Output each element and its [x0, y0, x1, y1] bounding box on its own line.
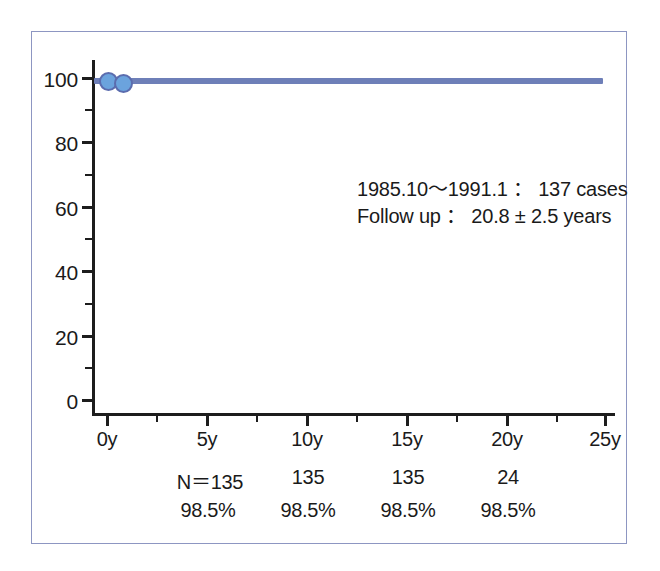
y-tick-minor-50	[85, 238, 93, 240]
x-tick-25y	[604, 415, 607, 426]
x-tick-minor-17_5y	[456, 415, 458, 422]
pct-value-20y: 98.5%	[443, 499, 573, 522]
y-tick-minor-10	[85, 367, 93, 369]
y-tick-label-80: 80	[12, 132, 78, 156]
y-tick-20	[82, 335, 93, 338]
x-tick-15y	[406, 415, 409, 426]
y-tick-80	[82, 141, 93, 144]
n-value-20y: 24	[443, 466, 573, 489]
x-tick-minor-7_5y	[256, 415, 258, 422]
y-tick-label-20: 20	[12, 326, 78, 350]
x-tick-label-5y: 5y	[167, 428, 247, 451]
event-marker-2	[114, 74, 133, 93]
x-tick-label-25y: 25y	[565, 428, 645, 451]
figure-root: 100 80 60 40 20 0 0y 5y	[0, 0, 660, 571]
y-tick-minor-90	[85, 109, 93, 111]
y-tick-100	[82, 77, 93, 80]
x-tick-0y	[106, 415, 109, 426]
x-axis-line	[92, 413, 615, 416]
y-tick-minor-30	[85, 303, 93, 305]
x-tick-label-15y: 15y	[367, 428, 447, 451]
annotation-line-cases: 1985.10〜1991.1 ： 137 cases	[357, 176, 628, 203]
y-tick-label-60: 60	[12, 197, 78, 221]
y-tick-minor-70	[85, 174, 93, 176]
x-tick-label-10y: 10y	[267, 428, 347, 451]
x-tick-minor-2_5y	[156, 415, 158, 422]
annotation-line-followup: Follow up ： 20.8 ± 2.5 years	[357, 203, 628, 230]
x-tick-20y	[506, 415, 509, 426]
x-tick-minor-12_5y	[356, 415, 358, 422]
x-tick-10y	[306, 415, 309, 426]
y-tick-60	[82, 206, 93, 209]
y-tick-label-40: 40	[12, 261, 78, 285]
y-tick-label-0: 0	[12, 390, 78, 414]
y-tick-0	[82, 399, 93, 402]
survival-curve-line	[94, 78, 603, 84]
x-tick-5y	[206, 415, 209, 426]
x-tick-label-20y: 20y	[467, 428, 547, 451]
y-tick-40	[82, 270, 93, 273]
y-tick-label-100: 100	[12, 68, 78, 92]
annotation-block: 1985.10〜1991.1 ： 137 cases Follow up ： 2…	[357, 176, 628, 230]
plot-area: 100 80 60 40 20 0 0y 5y	[0, 0, 660, 571]
x-tick-minor-22_5y	[556, 415, 558, 422]
x-tick-label-0y: 0y	[67, 428, 147, 451]
